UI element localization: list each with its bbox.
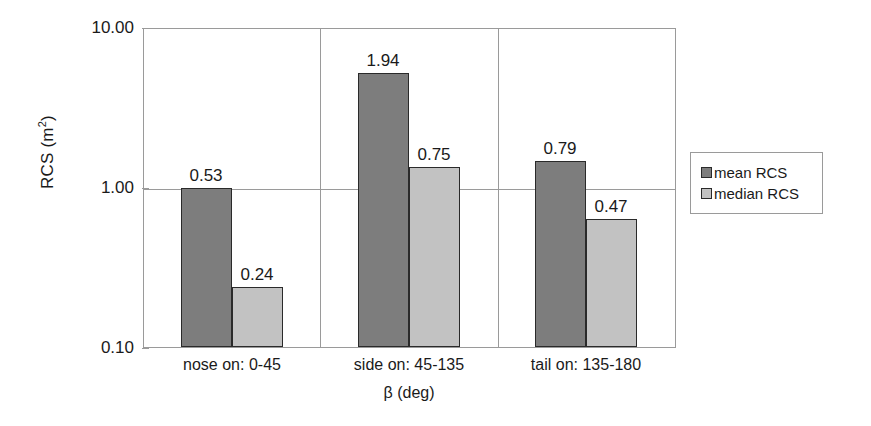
bar-value-median-nose-on: 0.24 <box>240 265 273 285</box>
y-axis-ticks: 10.00 1.00 0.10 <box>6 28 134 348</box>
legend-label-median-rcs: median RCS <box>714 185 799 202</box>
bar-value-mean-nose-on: 0.53 <box>189 166 222 186</box>
group-separator-2 <box>498 29 499 347</box>
bar-value-mean-tail-on: 0.79 <box>543 139 576 159</box>
bar-value-median-tail-on: 0.47 <box>594 197 627 217</box>
bar-median-tail-on <box>586 219 637 347</box>
bar-median-nose-on <box>232 287 283 347</box>
legend-label-mean-rcs: mean RCS <box>714 164 787 181</box>
legend-item-mean-rcs[interactable]: mean RCS <box>701 162 814 183</box>
legend: mean RCS median RCS <box>690 152 823 214</box>
group-separator-1 <box>320 29 321 347</box>
legend-swatch-mean-rcs <box>701 167 712 178</box>
bar-mean-tail-on <box>535 161 586 347</box>
y-tick-label-10: 10.00 <box>14 18 134 38</box>
bar-value-median-side-on: 0.75 <box>417 145 450 165</box>
y-tick-label-1: 1.00 <box>14 178 134 198</box>
plot-area <box>143 28 676 348</box>
legend-swatch-median-rcs <box>701 188 712 199</box>
bar-median-side-on <box>409 167 460 347</box>
bar-value-mean-side-on: 1.94 <box>366 51 399 71</box>
y-tick-mark-0-1 <box>142 348 149 349</box>
bar-mean-side-on <box>358 73 409 347</box>
chart-figure: RCS (m2) 10.00 1.00 0.10 0.53 0.24 1.94 … <box>0 0 871 426</box>
x-tick-label-nose-on: nose on: 0-45 <box>183 356 281 374</box>
x-tick-label-side-on: side on: 45-135 <box>354 356 464 374</box>
x-axis-title: β (deg) <box>384 384 435 402</box>
legend-item-median-rcs[interactable]: median RCS <box>701 183 814 204</box>
x-tick-label-tail-on: tail on: 135-180 <box>531 356 641 374</box>
bar-mean-nose-on <box>181 188 232 347</box>
y-tick-label-0-1: 0.10 <box>14 338 134 358</box>
